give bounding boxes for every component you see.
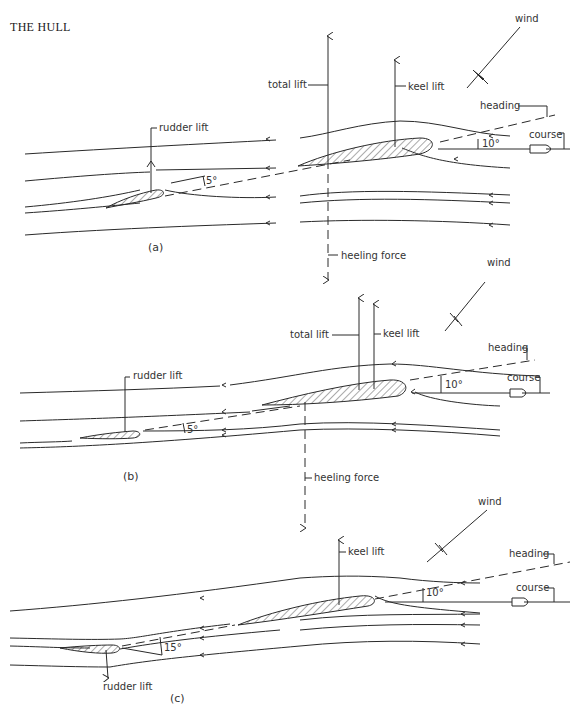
- keel-lift-label-a: keel lift: [408, 81, 445, 92]
- panel-c: 10° heading course 15° keel lift rudder …: [10, 496, 570, 705]
- total-lift-label-a: total lift: [268, 79, 307, 90]
- course-label-c: course: [516, 582, 549, 593]
- course-label-b: course: [507, 372, 540, 383]
- wind-label-c: wind: [478, 496, 502, 507]
- total-lift-label-b: total lift: [290, 329, 329, 340]
- rudder-foil: [60, 645, 120, 653]
- heeling-force-label-b: heeling force: [314, 472, 379, 483]
- panel-b: 10° heading course 5° total lift keel li…: [20, 257, 550, 528]
- panel-a: 10° heading course 5° total lift keel li…: [25, 13, 570, 280]
- heading-angle-c: 10°: [426, 587, 444, 598]
- caption-b: (b): [123, 470, 139, 483]
- heading-label-a: heading: [480, 100, 520, 111]
- heeling-force-label-a: heeling force: [341, 250, 406, 261]
- rudder-lift-label-c: rudder lift: [103, 681, 152, 692]
- keel-lift-label-b: keel lift: [383, 328, 420, 339]
- keel-lift-label-c: keel lift: [348, 546, 385, 557]
- rudder-lift-label-a: rudder lift: [159, 122, 208, 133]
- wind-label-a: wind: [515, 13, 539, 24]
- wind-label-b: wind: [487, 257, 511, 268]
- keel-foil: [262, 380, 406, 405]
- keel-foil: [298, 138, 432, 166]
- heading-angle-b: 10°: [445, 379, 463, 390]
- rudder-angle-c: 15°: [164, 642, 182, 653]
- rudder-foil: [106, 190, 164, 208]
- rudder-angle-a: 5°: [206, 175, 217, 186]
- sailing-forces-diagram: 10° heading course 5° total lift keel li…: [0, 0, 585, 714]
- caption-c: (c): [170, 692, 185, 705]
- rudder-lift-label-b: rudder lift: [133, 370, 182, 381]
- rudder-foil: [80, 431, 140, 439]
- keel-foil: [238, 596, 374, 625]
- heading-angle-a: 10°: [482, 138, 500, 149]
- course-label-a: course: [529, 129, 562, 140]
- caption-a: (a): [148, 241, 163, 254]
- rudder-angle-b: 5°: [187, 424, 198, 435]
